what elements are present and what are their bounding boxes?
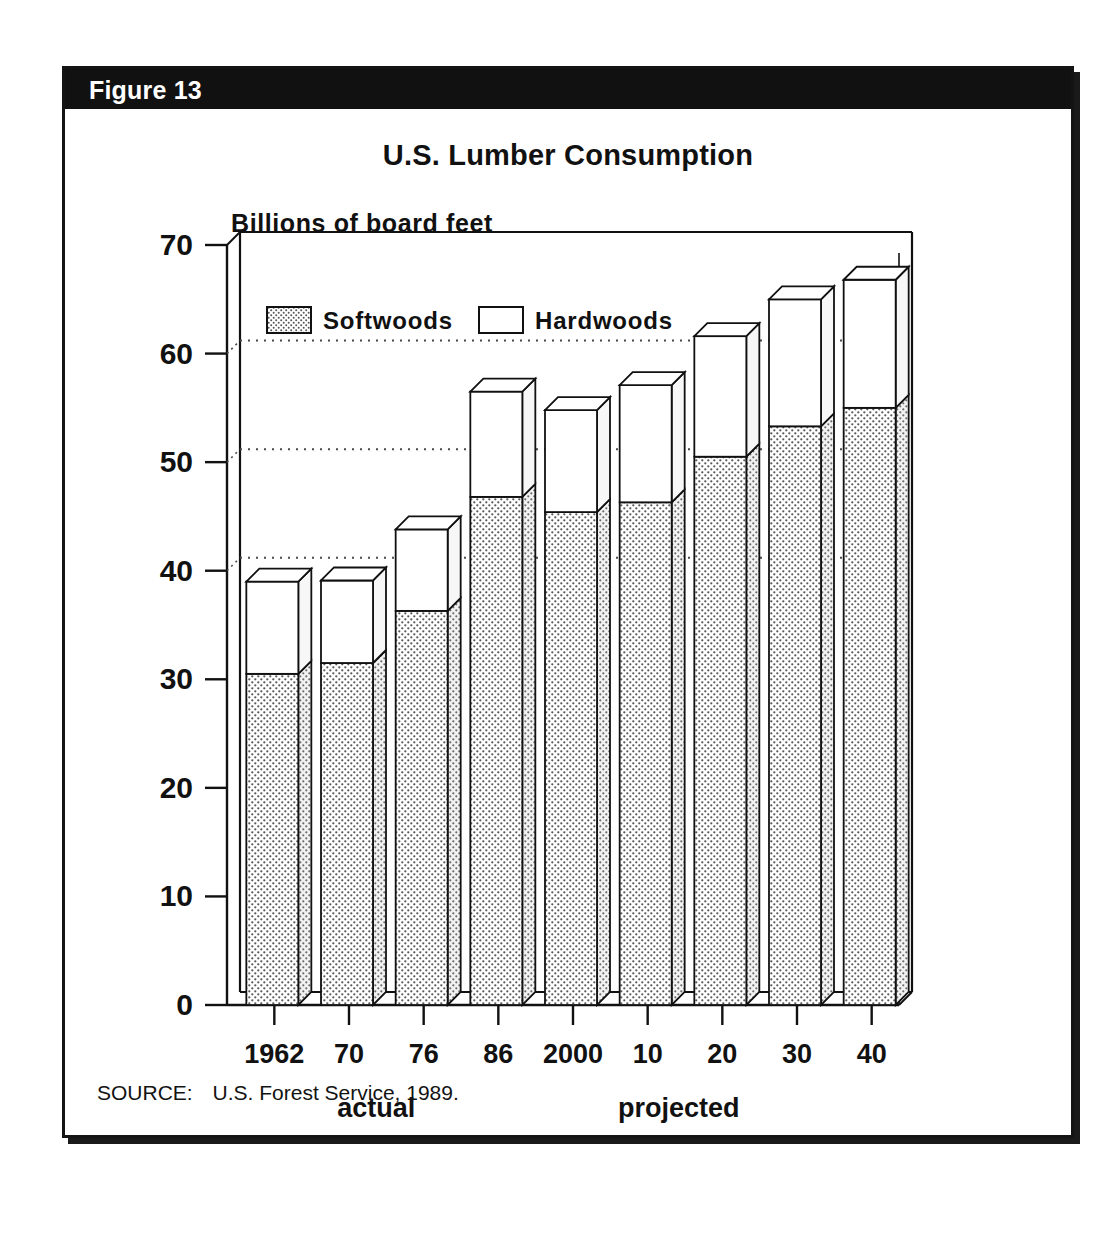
chart-plot-area: 0102030405060701962707686200010203040act… [65, 69, 1071, 1141]
source-label: SOURCE: [97, 1081, 193, 1104]
bar-segment-softwood-side [522, 484, 535, 1005]
gridline-leader [227, 341, 240, 354]
y-axis-tick-label: 60 [160, 337, 193, 370]
bar-segment-softwood-front [545, 512, 597, 1005]
y-axis-tick-label: 20 [160, 771, 193, 804]
bar-group [396, 516, 461, 1005]
bar-group [470, 379, 535, 1005]
bar-segment-hardwood-front [396, 529, 448, 610]
bar-segment-softwood-side [896, 395, 909, 1005]
bar-segment-softwood-side [448, 598, 461, 1005]
bar-segment-softwood-front [246, 674, 298, 1005]
bar-segment-hardwood-front [470, 392, 522, 497]
plot-corner-connector-topleft [227, 232, 240, 245]
bar-group [620, 372, 685, 1005]
x-axis-tick-label: 10 [633, 1039, 663, 1069]
y-axis-tick-label: 40 [160, 554, 193, 587]
legend-label-hardwoods: Hardwoods [535, 307, 673, 334]
bar-segment-hardwood-front [844, 280, 896, 408]
x-axis-tick-label: 1962 [244, 1039, 304, 1069]
y-axis-tick-label: 30 [160, 662, 193, 695]
gridline-leader [227, 558, 240, 571]
source-note: SOURCE: U.S. Forest Service, 1989. [97, 1081, 459, 1105]
bar-segment-softwood-front [321, 663, 373, 1005]
bar-segment-hardwood-side [896, 267, 909, 408]
gridline-leader [227, 449, 240, 462]
source-text: U.S. Forest Service, 1989. [213, 1081, 459, 1104]
chart-legend: SoftwoodsHardwoods [267, 307, 673, 334]
bar-segment-softwood-side [373, 650, 386, 1005]
bar-segment-softwood-side [821, 413, 834, 1005]
y-axis-tick-label: 0 [176, 988, 193, 1021]
axis-group-annotation: projected [618, 1093, 740, 1123]
bar-group [844, 267, 909, 1005]
legend-label-softwoods: Softwoods [323, 307, 453, 334]
bar-segment-hardwood-side [298, 569, 311, 674]
bar-group [321, 567, 386, 1005]
x-axis-tick-label: 86 [483, 1039, 513, 1069]
bar-segment-hardwood-side [448, 516, 461, 610]
bar-segment-hardwood-side [672, 372, 685, 502]
x-axis-tick-label: 20 [707, 1039, 737, 1069]
bar-group [694, 323, 759, 1005]
bar-segment-hardwood-front [246, 582, 298, 674]
chart-svg: 0102030405060701962707686200010203040act… [65, 69, 1071, 1141]
bar-segment-hardwood-side [522, 379, 535, 497]
bar-segment-softwood-side [597, 499, 610, 1005]
y-axis-tick-label: 10 [160, 879, 193, 912]
bar-segment-hardwood-front [694, 336, 746, 457]
bar-segment-hardwood-side [746, 323, 759, 457]
x-axis-tick-label: 40 [857, 1039, 887, 1069]
bar-segment-softwood-front [396, 611, 448, 1005]
bar-group [769, 286, 834, 1005]
bar-segment-softwood-side [746, 444, 759, 1005]
bar-group [545, 397, 610, 1005]
x-axis-tick-label: 70 [334, 1039, 364, 1069]
y-axis-tick-label: 50 [160, 445, 193, 478]
bar-segment-hardwood-front [545, 410, 597, 512]
bar-segment-hardwood-front [620, 385, 672, 502]
bar-segment-softwood-side [298, 661, 311, 1005]
bar-segment-hardwood-side [373, 567, 386, 663]
bar-segment-hardwood-side [597, 397, 610, 512]
bar-group [246, 569, 311, 1005]
bar-segment-softwood-side [672, 489, 685, 1005]
bar-segment-hardwood-side [821, 286, 834, 426]
figure-panel-shadow-right [1074, 72, 1080, 1144]
bar-segment-hardwood-front [769, 299, 821, 426]
x-axis-tick-label: 2000 [543, 1039, 603, 1069]
bar-segment-softwood-front [470, 497, 522, 1005]
figure-panel: Figure 13 U.S. Lumber Consumption Billio… [62, 66, 1074, 1138]
legend-swatch-softwoods [267, 307, 311, 333]
legend-swatch-hardwoods [479, 307, 523, 333]
bar-segment-hardwood-front [321, 580, 373, 663]
bar-segment-softwood-front [844, 408, 896, 1005]
x-axis-tick-label: 76 [409, 1039, 439, 1069]
y-axis-tick-label: 70 [160, 228, 193, 261]
x-axis-tick-label: 30 [782, 1039, 812, 1069]
bar-segment-softwood-front [620, 502, 672, 1005]
bar-segment-softwood-front [694, 457, 746, 1005]
bar-segment-softwood-front [769, 426, 821, 1005]
